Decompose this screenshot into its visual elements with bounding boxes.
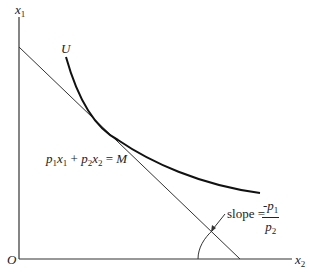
- budget-equation: p1x1 + p2x2 = M: [46, 152, 127, 168]
- slope-numerator: -p1: [262, 199, 279, 218]
- slope-fraction: -p1 p2: [262, 199, 279, 236]
- slope-pointer-arrow: [213, 214, 225, 229]
- slope-den-sub: 2: [272, 226, 277, 236]
- eq-M: M: [116, 151, 127, 166]
- slope-label: slope =: [227, 207, 265, 220]
- y-axis-label: x1: [15, 3, 25, 19]
- eq-equals: =: [102, 151, 116, 166]
- origin-label: O: [7, 253, 16, 266]
- x-axis-sub: 2: [301, 259, 306, 269]
- slope-num-sub: 1: [274, 205, 279, 215]
- slope-num-text: -p: [263, 198, 274, 213]
- indifference-curve-label: U: [61, 42, 70, 55]
- slope-denominator: p2: [262, 218, 279, 236]
- x-axis-label: x2: [295, 253, 305, 269]
- eq-plus: +: [67, 151, 81, 166]
- slope-angle-arc: [198, 230, 213, 259]
- y-axis-sub: 1: [21, 9, 26, 19]
- indifference-curve: [66, 57, 260, 193]
